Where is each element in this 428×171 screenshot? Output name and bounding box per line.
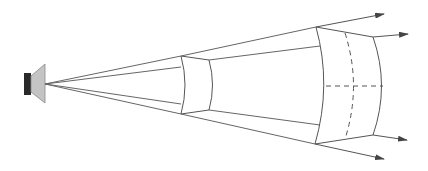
far-wavefront: [315, 27, 383, 144]
far-wavefront-left-arc: [315, 27, 324, 144]
far-wavefront-bottom-edge: [315, 135, 373, 144]
arrow-outer-bottom: [315, 144, 384, 159]
near-wavefront: [181, 56, 213, 114]
near-wavefront-top-edge: [181, 56, 209, 60]
near-wavefront-bottom-edge: [181, 110, 209, 114]
arrow-inner-bottom: [373, 135, 407, 140]
ray-inner-top-far: [209, 46, 320, 60]
ray-outer-top-far: [181, 27, 316, 56]
ray-inner-bottom: [45, 84, 181, 104]
arrow-inner-top: [373, 34, 408, 37]
rays-near: [45, 56, 181, 114]
rays-far: [181, 27, 320, 144]
speaker-cone: [31, 64, 45, 103]
ray-inner-bottom-far: [209, 110, 320, 125]
near-wavefront-right-arc: [209, 60, 213, 110]
near-wavefront-left-arc: [181, 56, 185, 114]
ray-outer-bottom: [45, 84, 181, 114]
speaker-magnet: [24, 73, 31, 95]
far-wavefront-top-edge: [316, 27, 373, 37]
sound-propagation-diagram: [0, 0, 428, 171]
speaker-icon: [24, 64, 45, 103]
ray-outer-bottom-far: [181, 114, 315, 144]
arrow-outer-top: [316, 14, 384, 27]
